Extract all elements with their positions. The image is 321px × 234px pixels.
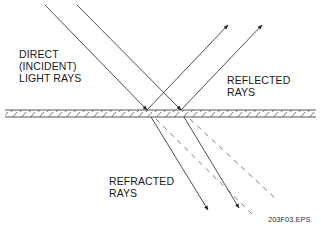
dashed-continuation-lines — [156, 119, 276, 214]
reflected-label-line1: REFLECTED — [227, 74, 290, 86]
refracted-label-line1: REFRACTED — [109, 175, 174, 187]
reflected-label-line2: RAYS — [227, 86, 290, 98]
reflected-rays-label: REFLECTED RAYS — [227, 74, 290, 98]
refracted-rays-label: REFRACTED RAYS — [109, 175, 174, 199]
incident-label-line3: LIGHT RAYS — [19, 72, 81, 84]
incident-label-line1: DIRECT — [19, 48, 81, 60]
figure-caption: 203F03.EPS — [268, 215, 311, 224]
incident-label-line2: (INCIDENT) — [19, 60, 81, 72]
refracted-label-line2: RAYS — [109, 187, 174, 199]
reflecting-surface — [5, 110, 316, 117]
incident-rays-label: DIRECT (INCIDENT) LIGHT RAYS — [19, 48, 81, 84]
